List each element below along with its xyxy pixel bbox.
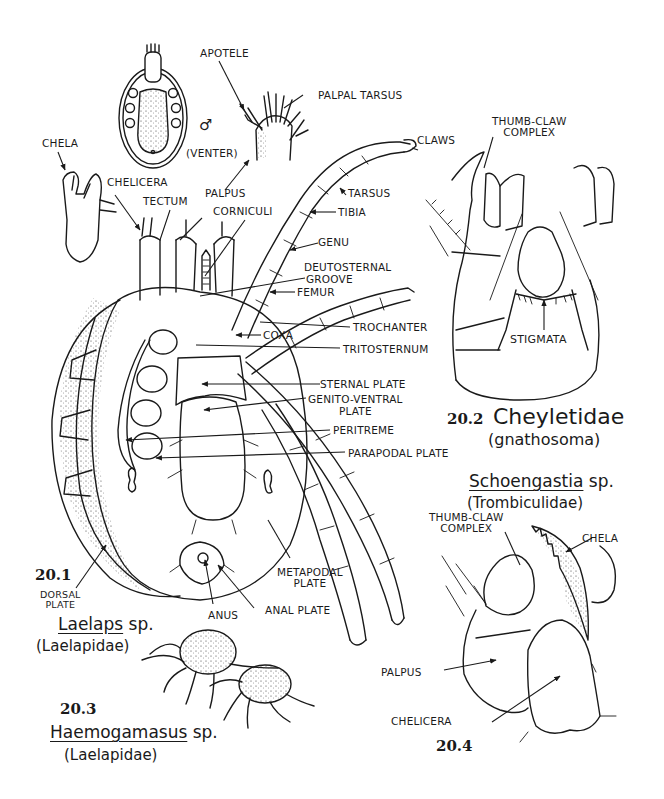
label-coxa: COXA bbox=[263, 330, 293, 341]
label-deutosternal-groove: DEUTOSTERNAL GROOVE bbox=[304, 261, 391, 285]
label-stigmata: STIGMATA bbox=[510, 334, 567, 345]
male-venter-inset-drawing bbox=[119, 44, 187, 168]
label-chelicera: CHELICERA bbox=[107, 177, 168, 188]
label-chelicera-20-4: CHELICERA bbox=[391, 716, 452, 727]
species-suffix: sp. bbox=[193, 722, 218, 742]
label-chela-20-4: CHELA bbox=[582, 533, 618, 544]
species-suffix: sp. bbox=[589, 471, 614, 491]
figure-number-20-3: 20.3 bbox=[60, 700, 97, 718]
label-metapodal-plate: METAPODAL PLATE bbox=[277, 567, 343, 589]
label-anus: ANUS bbox=[208, 610, 238, 621]
label-palpal-tarsus: PALPAL TARSUS bbox=[318, 90, 402, 101]
label-sternal-plate: STERNAL PLATE bbox=[320, 379, 406, 390]
genus-name: Laelaps bbox=[58, 614, 123, 634]
label-thumb-claw-complex-20-2: THUMB-CLAW COMPLEX bbox=[492, 116, 566, 138]
family-laelapidae-20-3: (Laelapidae) bbox=[64, 746, 157, 764]
family-trombiculidae: (Trombiculidae) bbox=[467, 494, 583, 512]
taxon-laelaps: Laelaps sp. bbox=[58, 614, 154, 634]
label-peritreme: PERITREME bbox=[333, 425, 394, 436]
species-suffix: sp. bbox=[129, 614, 154, 634]
laelaps-body-drawing bbox=[52, 218, 307, 600]
label-dorsal-plate: DORSAL PLATE bbox=[40, 590, 81, 610]
venter-caption: (VENTER) bbox=[186, 148, 238, 159]
haemogamasus-mites-drawing bbox=[142, 630, 314, 728]
label-parapodal-plate: PARAPODAL PLATE bbox=[348, 448, 449, 459]
label-chela: CHELA bbox=[42, 138, 78, 149]
label-corniculi: CORNICULI bbox=[213, 206, 273, 217]
label-tibia: TIBIA bbox=[338, 207, 366, 218]
genus-name: Schoengastia bbox=[469, 471, 583, 491]
label-apotele: APOTELE bbox=[200, 48, 249, 59]
label-tectum: TECTUM bbox=[143, 196, 188, 207]
label-genu: GENU bbox=[318, 237, 349, 248]
palpal-tarsus-drawing bbox=[240, 92, 308, 160]
label-tarsus: TARSUS bbox=[348, 188, 390, 199]
label-thumb-claw-complex-20-4: THUMB-CLAW COMPLEX bbox=[429, 512, 503, 534]
figure-number-20-2: 20.2 bbox=[447, 410, 484, 428]
label-trochanter: TROCHANTER bbox=[353, 322, 428, 333]
label-tritosternum: TRITOSTERNUM bbox=[343, 344, 429, 355]
male-symbol-icon: ♂ bbox=[199, 120, 213, 131]
label-genito-ventral-plate: GENITO-VENTRAL PLATE bbox=[308, 393, 403, 417]
genus-name: Haemogamasus bbox=[50, 722, 187, 742]
label-palpus: PALPUS bbox=[205, 188, 246, 199]
figure-number-20-4: 20.4 bbox=[436, 737, 473, 755]
label-claws: CLAWS bbox=[417, 135, 455, 146]
taxon-schoengastia: Schoengastia sp. bbox=[469, 471, 614, 491]
subtitle-gnathosoma: (gnathosoma) bbox=[488, 430, 600, 449]
schoengastia-mouthparts-drawing bbox=[442, 526, 616, 742]
title-cheyletidae: Cheyletidae bbox=[493, 404, 624, 429]
label-palpus-20-4: PALPUS bbox=[381, 667, 422, 678]
cheyletidae-gnathosoma-drawing bbox=[426, 152, 614, 400]
label-femur: FEMUR bbox=[297, 287, 335, 298]
label-anal-plate: ANAL PLATE bbox=[265, 605, 330, 616]
figure-number-20-1: 20.1 bbox=[35, 566, 72, 584]
taxon-haemogamasus: Haemogamasus sp. bbox=[50, 722, 218, 742]
family-laelapidae: (Laelapidae) bbox=[36, 637, 129, 655]
